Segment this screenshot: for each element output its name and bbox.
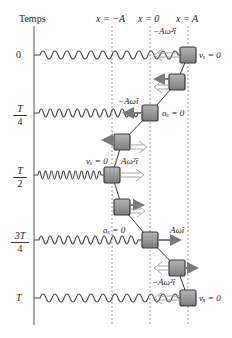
annotation-tq-vel: −Aωî	[118, 97, 138, 106]
position-guides	[112, 26, 188, 325]
annotation-tq-accel: aₓ = 0	[162, 109, 184, 118]
annotation-tT-vel: vₓ = 0	[199, 294, 221, 303]
time-label-t-half: T 2	[13, 166, 27, 189]
annotation-th-accel: Aω²î	[121, 157, 138, 166]
annotation-t0-vel: vₓ = 0	[199, 51, 221, 60]
annotation-3q-vel: Aωî	[170, 226, 184, 235]
time-label-t-quarter: T 4	[13, 104, 27, 127]
time-label-t: T	[16, 293, 22, 303]
annotation-th-vel: vₓ = 0	[86, 157, 108, 166]
annotation-3q-accel: aₓ = 0	[103, 226, 125, 235]
diagram-graphics	[0, 0, 232, 338]
time-label-three-quarter: 3T 4	[11, 231, 29, 254]
oscillation-diagram: Temps x = −A x = 0 x = A	[0, 0, 232, 338]
annotation-t0-accel: −Aω²î	[153, 27, 176, 36]
time-label-0: 0	[16, 50, 21, 60]
annotation-tT-accel: −Aω²î	[152, 278, 175, 287]
